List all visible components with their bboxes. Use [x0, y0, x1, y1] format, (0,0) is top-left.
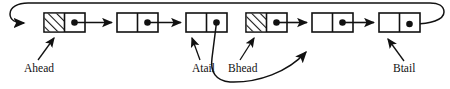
label-ahead: Ahead — [24, 62, 54, 74]
label-btail: Btail — [393, 62, 415, 74]
linked-list-diagram: Ahead Atail Bhead Btail — [0, 0, 450, 89]
pointer-arrow-bhead — [240, 38, 254, 60]
pointer-arrow-atail — [192, 38, 200, 60]
pointer-dot — [406, 21, 413, 28]
node-b-node-2 — [379, 13, 420, 32]
label-atail: Atail — [192, 62, 215, 74]
pointer-arrow-btail — [388, 39, 404, 61]
label-bhead: Bhead — [228, 62, 258, 74]
pointer-arrow-ahead — [38, 38, 54, 60]
diagram-canvas: Ahead Atail Bhead Btail — [0, 0, 450, 89]
node-a-node-2 — [186, 13, 227, 32]
